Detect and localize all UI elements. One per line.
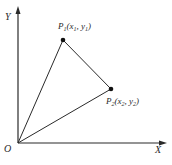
y-axis-label: Y (5, 11, 12, 22)
point-p2-label: P2(x2, y2) (105, 96, 139, 107)
segment-p1-p2 (63, 40, 111, 89)
origin-label: O (4, 143, 11, 154)
point-p1-label: P1(x1, y1) (57, 21, 91, 32)
segment-o-p1 (18, 40, 63, 143)
coordinate-diagram: Y X O P1(x1, y1) P2(x2, y2) (0, 0, 172, 165)
point-p1 (61, 38, 66, 43)
segment-o-p2 (18, 89, 111, 143)
x-axis-label: X (154, 144, 162, 155)
y-axis-arrow-icon (16, 6, 21, 14)
point-p2 (109, 87, 114, 92)
